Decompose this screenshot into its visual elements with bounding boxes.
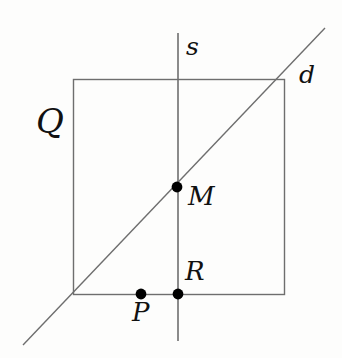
- diagram-canvas: [0, 0, 342, 358]
- point-r: [173, 289, 184, 300]
- point-m: [172, 182, 183, 193]
- label-line-s: s: [186, 34, 199, 59]
- label-point-m: M: [188, 183, 215, 209]
- label-line-d: d: [299, 62, 315, 87]
- label-point-r: R: [185, 258, 205, 284]
- geometry-figure: Q s d M R P: [0, 0, 342, 358]
- label-square-q: Q: [36, 104, 64, 138]
- label-point-p: P: [132, 299, 150, 325]
